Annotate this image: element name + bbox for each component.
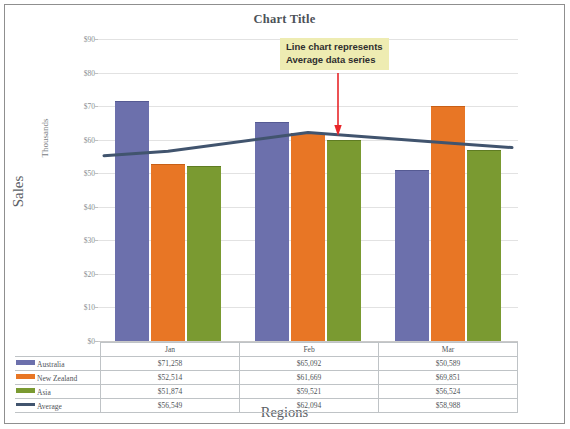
y-axis-tick-mark	[94, 207, 98, 208]
average-line-series	[98, 39, 518, 341]
y-axis-units-label: Thousands	[40, 98, 50, 178]
table-cell-feb: $61,669	[240, 371, 379, 385]
legend-label: Average	[37, 401, 62, 410]
table-header-row: Jan Feb Mar	[15, 343, 518, 357]
legend-swatch-icon	[16, 403, 35, 406]
y-axis-tick-mark	[94, 240, 98, 241]
column-header-jan: Jan	[101, 343, 240, 357]
table-cell-jan: $51,874	[101, 385, 240, 399]
table-row: Asia$51,874$59,521$56,524	[15, 385, 518, 399]
table-cell-feb: $59,521	[240, 385, 379, 399]
legend-entry-australia: Australia	[15, 357, 101, 371]
legend-swatch-icon	[16, 374, 35, 379]
legend-label: Asia	[37, 387, 51, 396]
y-axis-tick-mark	[94, 173, 98, 174]
chart-frame: Chart Title Sales Thousands Regions $0$1…	[4, 4, 565, 424]
table-cell-mar: $58,988	[379, 399, 518, 413]
table-cell-feb: $62,094	[240, 399, 379, 413]
y-axis-tick-mark	[94, 106, 98, 107]
column-header-mar: Mar	[379, 343, 518, 357]
legend-swatch-icon	[16, 360, 35, 365]
legend-entry-new-zealand: New Zealand	[15, 371, 101, 385]
table-body: Australia$71,258$65,092$50,589New Zealan…	[15, 357, 518, 413]
table-row: Australia$71,258$65,092$50,589	[15, 357, 518, 371]
legend-entry-asia: Asia	[15, 385, 101, 399]
column-header-feb: Feb	[240, 343, 379, 357]
table-cell-feb: $65,092	[240, 357, 379, 371]
table-cell-jan: $52,514	[101, 371, 240, 385]
table-cell-mar: $50,589	[379, 357, 518, 371]
annotation-callout: Line chart represents Average data serie…	[280, 38, 389, 70]
y-axis-tick-mark	[94, 39, 98, 40]
table-cell-mar: $56,524	[379, 385, 518, 399]
table-corner-cell	[15, 343, 101, 357]
y-axis-title: Sales	[10, 147, 27, 237]
annotation-line-2: Average data series	[286, 54, 383, 67]
annotation-arrow-icon	[333, 73, 343, 137]
y-axis-tick-mark	[94, 341, 98, 342]
legend-swatch-icon	[16, 388, 35, 393]
y-axis-tick-mark	[94, 140, 98, 141]
table-cell-jan: $56,549	[101, 399, 240, 413]
legend-label: New Zealand	[37, 373, 77, 382]
y-axis-tick-mark	[94, 73, 98, 74]
y-axis-tick-labels: $0$10$20$30$40$50$60$70$80$90	[65, 39, 95, 341]
table-cell-jan: $71,258	[101, 357, 240, 371]
plot-area	[98, 39, 518, 341]
table-cell-mar: $69,851	[379, 371, 518, 385]
average-line-path	[104, 133, 512, 156]
y-axis-tick-mark	[94, 274, 98, 275]
annotation-line-1: Line chart represents	[286, 41, 383, 54]
legend-label: Australia	[37, 359, 65, 368]
data-table: Jan Feb Mar Australia$71,258$65,092$50,5…	[15, 342, 518, 413]
y-axis-tick-mark	[94, 307, 98, 308]
page-title: Chart Title	[5, 12, 564, 27]
table-row: New Zealand$52,514$61,669$69,851	[15, 371, 518, 385]
legend-entry-average: Average	[15, 399, 101, 413]
table-row: Average$56,549$62,094$58,988	[15, 399, 518, 413]
